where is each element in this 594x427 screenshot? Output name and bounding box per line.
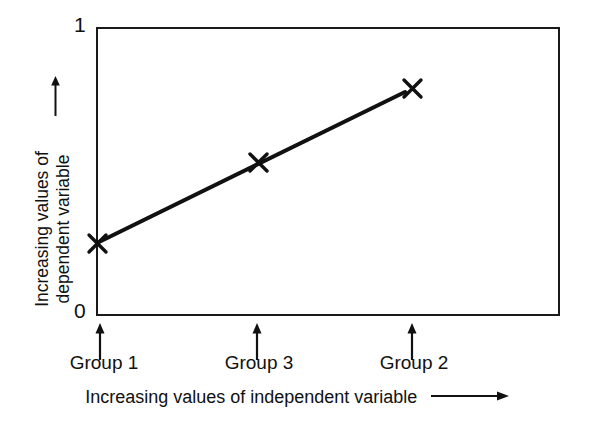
plot-frame <box>96 27 560 316</box>
up-arrow-icon <box>50 76 61 116</box>
x-axis-category-label-2: Group 3 <box>199 352 319 374</box>
y-axis-label-line-2: dependent variable <box>53 122 74 336</box>
y-axis-label: Increasing values of dependent variable <box>32 122 74 336</box>
x-axis-label-group: Increasing values of independent variabl… <box>0 386 594 408</box>
chart-figure: 1 0 Increasing values of dependent varia… <box>0 0 594 427</box>
right-arrow-icon <box>431 390 509 402</box>
x-axis-category-label-1: Group 1 <box>44 352 164 374</box>
y-axis-label-line-1: Increasing values of <box>32 151 52 307</box>
x-axis-category-label-3: Group 2 <box>354 352 474 374</box>
y-axis-tick-label-top: 1 <box>74 14 86 35</box>
y-axis-label-group: Increasing values of dependent variable <box>8 36 88 306</box>
x-axis-label: Increasing values of independent variabl… <box>85 386 417 408</box>
